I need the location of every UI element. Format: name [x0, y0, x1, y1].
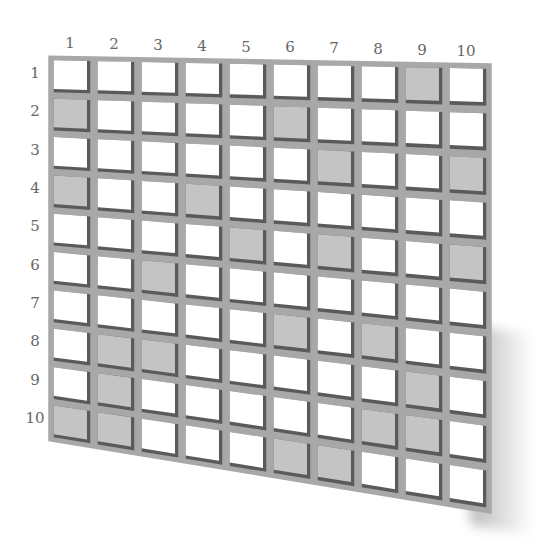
grid-cell-empty	[142, 221, 179, 257]
row-label: 10	[25, 409, 44, 427]
grid-cell-empty	[274, 231, 311, 269]
cell-face	[186, 345, 219, 379]
grid-cell-empty	[406, 198, 443, 237]
cell-face	[362, 66, 395, 99]
cell-face	[54, 214, 87, 246]
grid-cell-empty	[362, 280, 399, 319]
grid-cell-shaded	[54, 99, 91, 133]
cell-face	[406, 415, 439, 452]
grid-cell-empty	[450, 421, 487, 463]
row-label: 9	[30, 371, 40, 389]
grid-cell-empty	[230, 268, 267, 306]
grid-cell-empty	[450, 112, 487, 150]
cell-face	[98, 256, 131, 289]
column-label: 9	[417, 41, 427, 59]
cell-face	[362, 238, 395, 273]
cell-face	[54, 137, 87, 168]
cell-face	[54, 329, 87, 362]
cell-face	[450, 377, 483, 414]
grid-cell-shaded	[54, 175, 91, 210]
grid-cell-empty	[98, 139, 135, 174]
row-label: 2	[30, 102, 40, 120]
grid-cell-empty	[274, 355, 311, 394]
grid-cell-empty	[230, 64, 267, 99]
cell-face	[98, 373, 131, 407]
cell-face	[230, 64, 263, 96]
cell-face	[142, 102, 175, 133]
row-label: 1	[30, 64, 40, 82]
cell-face	[186, 264, 219, 298]
cell-face	[362, 195, 395, 229]
row-label: 3	[30, 141, 40, 159]
grid-cell-empty	[362, 238, 399, 277]
grid-cell-empty	[142, 102, 179, 137]
cell-face	[406, 154, 439, 188]
grid-cell-empty	[186, 224, 223, 261]
cell-face	[54, 406, 87, 440]
grid-cell-empty	[98, 61, 135, 95]
cell-face	[406, 328, 439, 364]
grid-cell-empty	[98, 256, 135, 292]
grid-cell-shaded	[274, 314, 311, 353]
grid-cell-shaded	[98, 334, 135, 371]
cell-face	[318, 445, 351, 482]
cell-face	[142, 379, 175, 413]
cell-face	[318, 108, 351, 141]
grid-cell-shaded	[406, 67, 443, 104]
grid-cell-empty	[274, 272, 311, 310]
cell-face	[406, 285, 439, 321]
cell-face	[274, 439, 307, 475]
grid-cell-empty	[98, 100, 135, 134]
grid-cell-empty	[274, 189, 311, 226]
cell-face	[406, 198, 439, 233]
column-label: 1	[65, 34, 75, 52]
grid-cell-empty	[98, 295, 135, 332]
cell-face	[186, 305, 219, 339]
grid-cell-shaded	[230, 227, 267, 264]
grid-cell-shaded	[98, 412, 135, 450]
grid-cell-empty	[318, 361, 355, 401]
cell-face	[274, 397, 307, 433]
cell-face	[142, 141, 175, 173]
grid-cell-empty	[230, 186, 267, 223]
grid-cell-empty	[318, 276, 355, 315]
grid-cell-shaded	[142, 260, 179, 297]
cell-face	[406, 67, 439, 100]
cell-face	[98, 139, 131, 170]
cell-face	[230, 432, 263, 468]
grid-cell-empty	[406, 241, 443, 280]
cell-face	[450, 465, 483, 503]
cell-face	[142, 62, 175, 93]
cell-face	[98, 100, 131, 131]
cell-face	[362, 452, 395, 489]
column-label: 5	[241, 38, 251, 56]
cell-face	[362, 409, 395, 446]
cell-face	[98, 217, 131, 249]
column-label: 8	[373, 40, 383, 58]
grid-cell-empty	[142, 141, 179, 176]
cell-face	[54, 60, 87, 90]
grid-cell-shaded	[450, 244, 487, 284]
cell-face	[450, 112, 483, 146]
grid-cell-shaded	[142, 339, 179, 377]
grid-cell-empty	[54, 329, 91, 366]
grid-cell-empty	[54, 214, 91, 249]
grid-cell-empty	[450, 465, 487, 508]
grid-cell-empty	[450, 200, 487, 239]
cell-face	[54, 290, 87, 323]
cell-face	[318, 234, 351, 268]
cell-face	[450, 421, 483, 459]
cell-face	[274, 355, 307, 390]
cell-face	[318, 150, 351, 183]
cell-face	[362, 323, 395, 359]
grid-cell-empty	[362, 366, 399, 406]
cell-face	[362, 366, 395, 402]
column-label: 4	[197, 37, 207, 55]
cell-face	[142, 339, 175, 373]
grid-cell-empty	[362, 66, 399, 103]
cell-face	[142, 181, 175, 213]
cell-face	[186, 224, 219, 257]
grid-cell-empty	[186, 143, 223, 179]
